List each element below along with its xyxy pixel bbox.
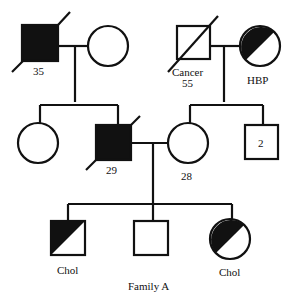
label-29: 29	[106, 164, 118, 176]
grandson2-square	[134, 221, 168, 255]
label-chol-1: Chol	[57, 264, 78, 276]
label-2: 2	[258, 137, 264, 149]
deceased-slash-lower	[86, 159, 97, 170]
aunt-circle	[18, 123, 58, 163]
label-28: 28	[181, 170, 193, 182]
deceased-slash-upper	[58, 12, 70, 25]
mother-circle	[168, 123, 208, 163]
deceased-slash-lower	[12, 60, 24, 72]
deceased-slash-upper	[130, 116, 140, 126]
label-55: 55	[182, 77, 194, 89]
pedigree-diagram: 35 Cancer 55 HBP 29 28 2 Chol Chol Famil…	[0, 0, 291, 302]
father-square	[96, 125, 131, 160]
diagram-title: Family A	[128, 280, 169, 292]
label-chol-2: Chol	[219, 266, 240, 278]
label-35: 35	[33, 65, 45, 77]
grandfather-paternal-square	[22, 25, 58, 61]
grandmother-paternal-circle	[88, 26, 128, 66]
label-hbp: HBP	[247, 74, 268, 86]
